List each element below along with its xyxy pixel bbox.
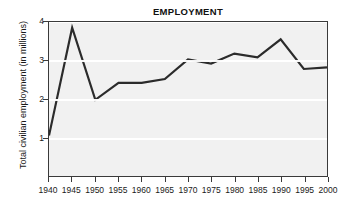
y-axis-tick-labels: 1234 <box>30 21 44 177</box>
x-tick-mark-1970 <box>188 177 189 182</box>
x-tick-mark-1950 <box>95 177 96 182</box>
y-tick-mark-2 <box>43 99 48 100</box>
y-axis-label: Total civilian employment (in millions) <box>18 10 28 180</box>
x-tick-mark-1960 <box>141 177 142 182</box>
x-tick-mark-1955 <box>118 177 119 182</box>
employment-line-chart: EMPLOYMENT Total civilian employment (in… <box>0 0 349 205</box>
x-tick-label-2000: 2000 <box>313 185 343 195</box>
x-tick-mark-1965 <box>165 177 166 182</box>
x-tick-mark-1945 <box>71 177 72 182</box>
y-tick-mark-1 <box>43 138 48 139</box>
y-tick-mark-4 <box>43 21 48 22</box>
series-polyline <box>49 28 327 136</box>
gridline-y-3 <box>49 60 327 62</box>
chart-title: EMPLOYMENT <box>48 6 328 17</box>
gridline-y-4 <box>49 21 327 23</box>
plot-area <box>48 21 328 177</box>
y-tick-mark-3 <box>43 60 48 61</box>
x-tick-mark-1975 <box>211 177 212 182</box>
x-tick-mark-1940 <box>48 177 49 182</box>
gridline-y-1 <box>49 138 327 140</box>
x-tick-mark-1990 <box>281 177 282 182</box>
x-tick-mark-1985 <box>258 177 259 182</box>
gridline-y-2 <box>49 99 327 101</box>
x-tick-mark-2000 <box>328 177 329 182</box>
x-tick-mark-1980 <box>235 177 236 182</box>
x-tick-mark-1995 <box>305 177 306 182</box>
